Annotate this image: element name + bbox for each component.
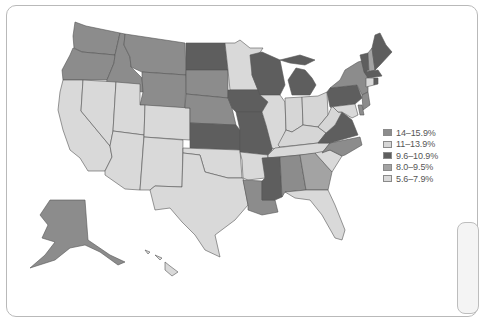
state-fl[interactable]: [285, 190, 345, 240]
state-me[interactable]: [372, 33, 392, 70]
legend-swatch: [383, 175, 392, 182]
state-nj[interactable]: [362, 92, 370, 110]
state-ut[interactable]: [113, 82, 145, 135]
legend-item: 5.6–7.9%: [383, 173, 438, 185]
legend-swatch: [383, 141, 392, 148]
legend-swatch: [383, 164, 392, 171]
legend-item: 9.6–10.9%: [383, 150, 438, 162]
state-mt[interactable]: [124, 34, 186, 75]
legend-label: 5.6–7.9%: [396, 174, 433, 184]
state-wa[interactable]: [73, 22, 120, 55]
legend-label: 9.6–10.9%: [396, 151, 438, 161]
state-ak[interactable]: [30, 200, 125, 268]
legend-label: 14–15.9%: [396, 128, 436, 138]
state-hi[interactable]: [145, 250, 178, 276]
state-nm[interactable]: [140, 137, 183, 190]
legend-item: 11–13.9%: [383, 139, 438, 151]
state-sd[interactable]: [186, 70, 228, 98]
legend-item: 8.0–9.5%: [383, 162, 438, 174]
legend-swatch: [383, 129, 392, 136]
state-ct[interactable]: [366, 78, 374, 87]
map-legend: 14–15.9% 11–13.9% 9.6–10.9% 8.0–9.5% 5.6…: [383, 127, 438, 185]
legend-label: 11–13.9%: [396, 139, 435, 149]
state-pa[interactable]: [327, 85, 362, 107]
legend-label: 8.0–9.5%: [396, 162, 433, 172]
state-ms[interactable]: [262, 157, 282, 200]
state-wy[interactable]: [140, 72, 186, 108]
state-co[interactable]: [144, 105, 190, 140]
state-nd[interactable]: [186, 43, 228, 70]
state-ri[interactable]: [374, 78, 378, 85]
state-mi[interactable]: [280, 55, 316, 95]
legend-item: 14–15.9%: [383, 127, 438, 139]
state-ks[interactable]: [190, 123, 240, 150]
legend-swatch: [383, 152, 392, 159]
